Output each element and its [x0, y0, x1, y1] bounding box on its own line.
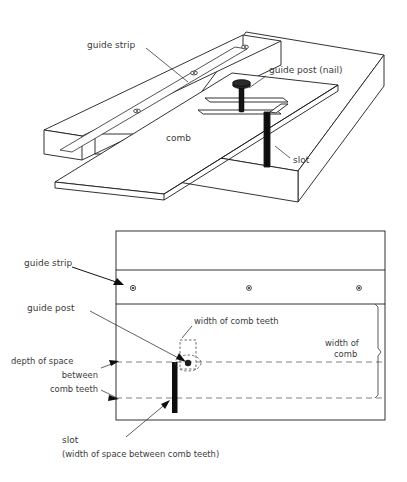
- plan-guide-strip-label: guide strip: [24, 258, 72, 268]
- depth-label-line2: between: [62, 370, 98, 380]
- comb-tooth-plate-upper: [205, 98, 288, 102]
- screw-hole-center: [193, 72, 195, 74]
- technical-diagram: guide strip guide post (nail) comb slot: [0, 0, 407, 482]
- width-of-comb-teeth-label: width of comb teeth: [194, 316, 279, 326]
- plan-slot-label: slot: [62, 435, 79, 445]
- plan-view-group: guide strip guide post width of comb tee…: [11, 231, 385, 459]
- plan-guide-strip-leader: [72, 267, 122, 284]
- screw-hole-center: [136, 110, 138, 112]
- guide-strip-label: guide strip: [87, 40, 135, 50]
- guide-post-nail-label: guide post (nail): [269, 65, 343, 75]
- width-of-comb-label-line2: comb: [334, 349, 357, 359]
- nail-shaft: [239, 85, 244, 112]
- screw-hole-center: [248, 287, 250, 289]
- screw-hole-center: [132, 287, 134, 289]
- guide-post-dot-icon: [185, 360, 191, 366]
- nail-head-top: [233, 80, 251, 87]
- screw-hole-center: [358, 287, 360, 289]
- slot-label: slot: [293, 155, 310, 165]
- depth-label-line1: depth of space: [11, 356, 73, 366]
- width-of-comb-label-line1: width of: [325, 338, 360, 348]
- figure-page: guide strip guide post (nail) comb slot: [0, 0, 407, 482]
- slot-bar: [172, 362, 178, 413]
- isometric-view-group: guide strip guide post (nail) comb slot: [44, 32, 384, 202]
- slot-black-edge: [264, 112, 270, 167]
- comb-label: comb: [166, 133, 191, 143]
- depth-label-line3: comb teeth: [50, 384, 98, 394]
- plan-slot-sublabel: (width of space between comb teeth): [62, 449, 219, 459]
- plan-guide-post-label: guide post: [27, 303, 75, 313]
- screw-hole-center: [244, 46, 246, 48]
